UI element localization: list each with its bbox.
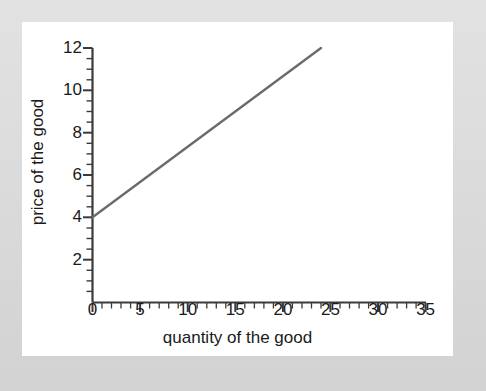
y-tick-label-8: 8 — [48, 123, 82, 143]
x-tick-label-30: 30 — [358, 300, 398, 320]
y-axis-title-wrapper: price of the good — [28, 32, 52, 292]
chart-panel: 12 10 8 6 4 2 0 5 10 15 20 25 30 35 quan… — [22, 22, 453, 356]
x-tick-label-10: 10 — [168, 300, 208, 320]
x-tick-label-0: 0 — [73, 300, 113, 320]
y-tick-label-12: 12 — [48, 38, 82, 58]
y-tick-label-2: 2 — [48, 250, 82, 270]
x-tick-label-35: 35 — [406, 300, 446, 320]
y-axis-title: price of the good — [28, 32, 48, 292]
y-tick-label-6: 6 — [48, 165, 82, 185]
x-tick-label-20: 20 — [263, 300, 303, 320]
x-tick-label-15: 15 — [215, 300, 255, 320]
x-tick-label-5: 5 — [120, 300, 160, 320]
x-tick-label-25: 25 — [310, 300, 350, 320]
y-tick-label-10: 10 — [48, 80, 82, 100]
y-tick-label-4: 4 — [48, 207, 82, 227]
supply-curve-line — [93, 48, 322, 217]
x-axis-title: quantity of the good — [22, 328, 453, 348]
figure-root: 12 10 8 6 4 2 0 5 10 15 20 25 30 35 quan… — [0, 0, 486, 391]
plot-area: 12 10 8 6 4 2 0 5 10 15 20 25 30 35 quan… — [22, 22, 453, 356]
